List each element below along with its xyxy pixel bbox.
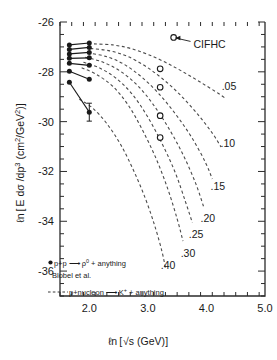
y-tick-label: -28 (38, 66, 54, 78)
y-tick-label: -34 (38, 215, 54, 227)
data-point-filled (67, 61, 72, 66)
legend-3-anything: + anything (129, 288, 164, 297)
x-label-s: s (129, 335, 134, 347)
x-label-unit: (GeV) (137, 335, 165, 347)
model-curve-label: .40 (161, 259, 176, 271)
y-label-exp: 3 (13, 163, 22, 167)
figure-root: 2.03.04.05.0 -26-28-30-32-34-36 .05.10.1… (0, 0, 277, 360)
data-point-filled (87, 110, 92, 115)
legend-3-reactants: p+nucleon (69, 288, 104, 297)
annotation-label: CIFHC (194, 38, 226, 50)
x-tick-label: 5.0 (257, 302, 272, 314)
chart-svg: 2.03.04.05.0 -26-28-30-32-34-36 .05.10.1… (0, 0, 277, 360)
legend-1-reactants: p+p (54, 259, 67, 268)
data-point-filled (67, 51, 72, 56)
data-point-filled (67, 56, 72, 61)
model-curve-label: .10 (220, 137, 235, 149)
model-curve-label: .30 (181, 247, 196, 259)
data-point-filled (87, 45, 92, 50)
x-tick-label: 4.0 (199, 302, 214, 314)
y-label-expr: E dσ /dp (14, 167, 26, 207)
data-point-filled (67, 47, 72, 52)
data-point-open (157, 135, 163, 141)
model-curve-label: .20 (201, 212, 216, 224)
x-tick-label: 3.0 (140, 302, 155, 314)
legend-row-2-citation: Blobel et al. (52, 271, 91, 280)
x-axis-label: ℓn[√s(GeV)] (108, 335, 168, 347)
legend-1-anything: + anything (91, 259, 126, 268)
y-label-bracket-open: [ (14, 208, 26, 211)
chart-background (0, 0, 277, 360)
y-label-unit-open: (cm (14, 142, 26, 160)
data-point-filled (67, 80, 72, 85)
model-curve-label: .25 (189, 228, 204, 240)
x-tick-label: 2.0 (82, 302, 97, 314)
data-point-open (157, 66, 163, 72)
data-point-open (157, 113, 163, 119)
legend-1-rho-charge: 0 (86, 258, 89, 264)
data-point-filled (87, 50, 92, 55)
legend-filled-circle-icon (48, 260, 52, 264)
legend-row-3: p+nucleon⟶K++ anything (69, 287, 164, 297)
y-tick-label: -26 (38, 16, 54, 28)
data-point-open (157, 84, 163, 90)
y-tick-label: -32 (38, 165, 54, 177)
data-point-filled (67, 42, 72, 47)
svg-text:ℓn[√s(GeV)]: ℓn[√s(GeV)] (108, 335, 168, 347)
legend-1-arrow: ⟶ (69, 259, 81, 268)
data-point-filled (87, 63, 92, 68)
y-label-ln: ℓn (14, 213, 26, 222)
data-point-filled (87, 77, 92, 82)
x-label-bracket-close: ] (165, 335, 168, 347)
x-label-bracket-open: [ (119, 335, 122, 347)
y-label-unit-div: /GeV (14, 114, 26, 138)
legend-3-arrow: ⟶ (106, 288, 118, 297)
data-point-filled (87, 40, 92, 45)
legend-3-kaon-charge: + (124, 287, 127, 293)
data-point-filled (87, 55, 92, 60)
data-point-filled (67, 69, 72, 74)
x-label-ln: ℓn (108, 335, 117, 347)
model-curve-label: .05 (222, 80, 237, 92)
data-point-open (171, 35, 177, 41)
y-tick-label: -30 (38, 116, 54, 128)
y-label-bracket-close: ] (14, 103, 26, 106)
model-curve-label: .15 (211, 180, 226, 192)
